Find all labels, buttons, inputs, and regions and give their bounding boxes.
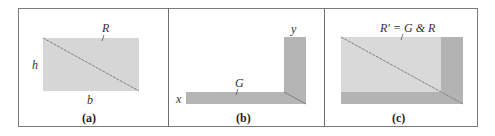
panel-c: R′ = G & R (c) — [0, 0, 495, 136]
label-r-prime: R′ = G & R — [379, 21, 436, 35]
caption-c: (c) — [392, 111, 405, 125]
